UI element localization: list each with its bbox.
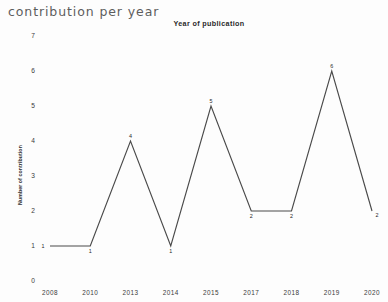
x-axis-tick-label: 2008: [42, 289, 58, 296]
y-axis-tick-label: 3: [31, 172, 35, 179]
data-point-label: 4: [129, 133, 132, 139]
x-axis-tick-label: 2017: [243, 289, 259, 296]
x-axis-tick-label: 2018: [283, 289, 299, 296]
data-point-label: 2: [376, 212, 379, 218]
x-axis-tick-label: 2020: [364, 289, 380, 296]
data-point-label: 5: [210, 98, 213, 104]
data-point-label: 6: [330, 63, 333, 69]
x-axis: 200820102013201420152017201820192020: [42, 289, 380, 296]
data-point-label: 2: [250, 213, 253, 219]
x-axis-tick-label: 2014: [163, 289, 179, 296]
data-point-label: 1: [42, 243, 45, 249]
data-point-label: 1: [169, 248, 172, 254]
y-axis-tick-label: 5: [31, 102, 35, 109]
chart-canvas: 01234567 2008201020132014201520172018201…: [0, 0, 388, 302]
line-chart-svg: 01234567 2008201020132014201520172018201…: [0, 0, 388, 302]
data-point-labels: 114152262: [42, 63, 379, 255]
chart-screenshot: contribution per year Year of publicatio…: [0, 0, 388, 302]
data-point-label: 2: [290, 213, 293, 219]
x-axis-tick-label: 2019: [324, 289, 340, 296]
x-axis-tick-label: 2015: [203, 289, 219, 296]
y-axis-tick-label: 0: [31, 277, 35, 284]
x-axis-tick-label: 2010: [82, 289, 98, 296]
y-axis-label: Number of contribution: [17, 145, 23, 205]
y-axis-tick-label: 1: [31, 242, 35, 249]
x-axis-tick-label: 2013: [122, 289, 138, 296]
y-axis: 01234567: [31, 32, 35, 284]
y-axis-tick-label: 6: [31, 67, 35, 74]
y-axis-tick-label: 7: [31, 32, 35, 39]
data-point-label: 1: [89, 248, 92, 254]
y-axis-tick-label: 4: [31, 137, 35, 144]
y-axis-tick-label: 2: [31, 207, 35, 214]
